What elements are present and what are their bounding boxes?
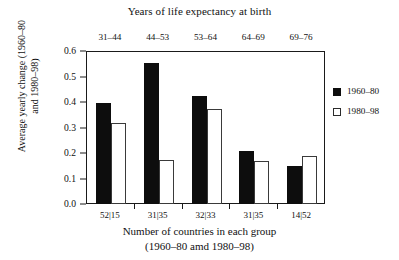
bar-1980-98: [207, 109, 222, 204]
top-tick-label: 31–44: [86, 30, 134, 44]
chart-legend: 1960–80 1980–98: [333, 84, 397, 124]
empty-square-icon: [333, 108, 341, 116]
top-tick-label: 64–69: [229, 30, 277, 44]
legend-item: 1960–80: [333, 84, 397, 100]
bar-group: [134, 51, 182, 204]
bars-layer: [86, 51, 325, 204]
bar-group: [229, 51, 277, 204]
bar-1960-80: [192, 96, 207, 204]
x-axis-title-line1: Number of countries in each group: [123, 225, 277, 237]
bar-1980-98: [254, 161, 269, 204]
legend-label: 1980–98: [347, 107, 379, 116]
y-tick-label: 0.3: [36, 123, 76, 133]
x-tick-label: 14|52: [277, 209, 325, 222]
bar-1960-80: [287, 166, 302, 204]
x-tick-label: 31|35: [229, 209, 277, 222]
y-tick-label: 0.6: [36, 46, 76, 56]
bar-1980-98: [302, 156, 317, 204]
y-tick-label: 0.1: [36, 174, 76, 184]
y-tick-label: 0.5: [36, 72, 76, 82]
bar-1960-80: [96, 103, 111, 204]
top-tick-label: 44–53: [134, 30, 182, 44]
y-tick-label: 0.2: [36, 148, 76, 158]
x-tick-label: 52|15: [86, 209, 134, 222]
y-tick-label: 0.0: [36, 199, 76, 209]
bar-1980-98: [159, 160, 174, 204]
y-axis-ticks: 0.0 0.1 0.2 0.3 0.4 0.5 0.6: [0, 0, 86, 260]
bar-group: [182, 51, 230, 204]
bar-group: [86, 51, 134, 204]
top-tick-label: 69–76: [277, 30, 325, 44]
bar-group: [277, 51, 325, 204]
top-tick-label: 53–64: [182, 30, 230, 44]
filled-square-icon: [333, 88, 341, 96]
x-axis-title: Number of countries in each group (1960–…: [0, 224, 399, 254]
x-axis-tick-labels: 52|15 31|35 32|33 31|35 14|52: [86, 209, 325, 222]
x-axis-title-line2: (1960–80 amd 1980–98): [0, 239, 399, 254]
top-axis-tick-labels: 31–44 44–53 53–64 64–69 69–76: [86, 30, 325, 44]
bar-1980-98: [111, 123, 126, 204]
y-tick-label: 0.4: [36, 97, 76, 107]
bar-1960-80: [144, 63, 159, 204]
x-tick-label: 32|33: [182, 209, 230, 222]
bar-1960-80: [239, 151, 254, 204]
legend-label: 1960–80: [347, 87, 379, 96]
legend-item: 1980–98: [333, 104, 397, 120]
x-tick-label: 31|35: [134, 209, 182, 222]
